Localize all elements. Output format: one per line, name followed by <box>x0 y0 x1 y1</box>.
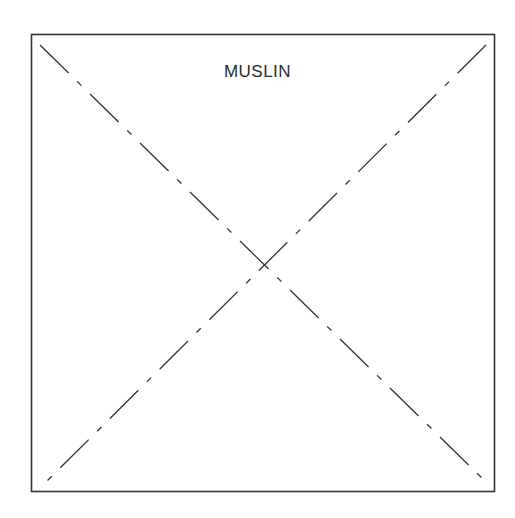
diagonal-line-top-right-to-bottom-left <box>42 45 486 486</box>
pattern-diagram: MUSLIN <box>0 0 515 518</box>
fabric-label: MUSLIN <box>0 62 515 82</box>
